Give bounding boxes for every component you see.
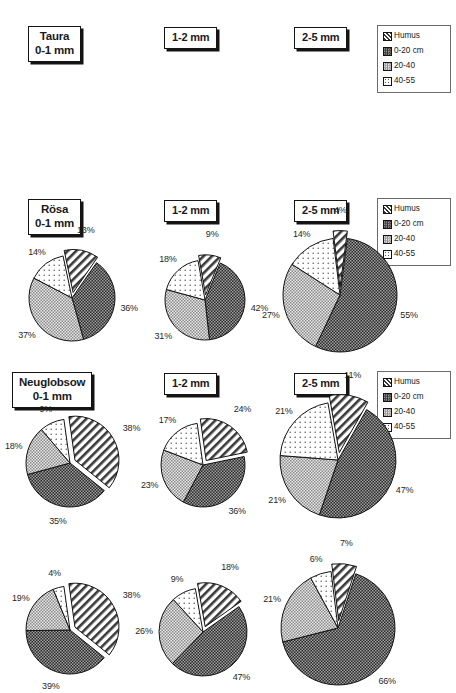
pie-percent-label: 21%: [263, 594, 280, 604]
pie-percent-label: 47%: [396, 485, 413, 495]
legend-swatch-humus-icon: [383, 32, 392, 41]
chart-row-taura: Taura 0-1 mm 1-2 mm 2-5 mm Humus 0-20 cm…: [0, 0, 456, 173]
pie-chart-taura-01mm: 13%36%37%14%: [3, 229, 141, 367]
pie-percent-label: 35%: [49, 516, 66, 526]
legend-swatch-0-20cm-icon: [383, 47, 392, 56]
pie-percent-label: 47%: [233, 672, 250, 682]
legend-label: 20-40: [394, 62, 415, 70]
site-name: Rösa: [35, 203, 74, 217]
legend-item-0-20cm: 0-20 cm: [383, 47, 446, 56]
pie-percent-label: 14%: [293, 229, 310, 239]
pie-chart-neuglobsow-01mm: 38%39%19%4%: [0, 560, 140, 693]
pie-percent-label: 66%: [378, 676, 395, 686]
pie-chart-taura-25mm: 4%55%27%14%: [257, 212, 423, 378]
pie-chart-neuglobsow-12mm: 18%47%26%9%: [133, 562, 273, 693]
pie-chart-rsa-25mm: 11%47%21%21%: [254, 376, 422, 544]
pie-percent-label: 18%: [221, 562, 238, 572]
pie-percent-label: 26%: [135, 626, 152, 636]
pie-percent-label: 14%: [28, 247, 45, 257]
pie-percent-label: 55%: [400, 310, 417, 320]
site-name: Taura: [35, 30, 74, 44]
pie-chart-rsa-12mm: 24%36%23%17%: [135, 397, 271, 533]
site-name: Neuglobsow: [19, 376, 85, 390]
pie-percent-label: 19%: [12, 593, 29, 603]
pie-percent-label: 4%: [334, 205, 347, 215]
site-header-taura: Taura 0-1 mm: [28, 26, 81, 62]
legend-label: 0-20 cm: [394, 47, 424, 55]
size-header-1-2mm-row2: 1-2 mm: [164, 200, 217, 222]
legend-swatch-40-55-icon: [383, 77, 392, 86]
legend-label: Humus: [394, 32, 420, 40]
pie-percent-label: 37%: [18, 330, 35, 340]
pie-percent-label: 13%: [77, 225, 94, 235]
pie-percent-label: 17%: [159, 415, 176, 425]
pie-percent-label: 4%: [48, 568, 61, 578]
pie-percent-label: 39%: [42, 681, 59, 691]
legend-row1: Humus 0-20 cm 20-40 40-55: [377, 25, 451, 93]
legend-item-40-55: 40-55: [383, 77, 446, 86]
pie-percent-label: 24%: [234, 404, 251, 414]
pie-percent-label: 11%: [344, 370, 361, 380]
pie-percent-label: 27%: [262, 310, 279, 320]
size-class: 1-2 mm: [172, 204, 209, 217]
pie-percent-label: 23%: [141, 480, 158, 490]
pie-percent-label: 18%: [5, 441, 22, 451]
pie-percent-label: 9%: [40, 404, 53, 414]
pie-slice-humus: [200, 419, 247, 461]
pie-percent-label: 18%: [159, 254, 176, 264]
size-header-1-2mm-row1: 1-2 mm: [164, 27, 217, 49]
pie-percent-label: 6%: [310, 554, 323, 564]
pie-chart-rsa-01mm: 38%35%18%9%: [0, 393, 140, 533]
legend-item-humus: Humus: [383, 32, 446, 41]
size-class: 1-2 mm: [172, 31, 209, 44]
pie-percent-label: 9%: [206, 229, 219, 239]
legend-item-20-40: 20-40: [383, 62, 446, 71]
size-class: 2-5 mm: [302, 31, 339, 44]
size-header-1-2mm-row3: 1-2 mm: [164, 373, 217, 395]
pie-percent-label: 21%: [275, 406, 292, 416]
size-class: 1-2 mm: [172, 377, 209, 390]
pie-percent-label: 9%: [171, 574, 184, 584]
legend-label: 40-55: [394, 77, 415, 85]
size-header-2-5mm-row1: 2-5 mm: [294, 27, 347, 49]
pie-percent-label: 31%: [155, 331, 172, 341]
legend-swatch-20-40-icon: [383, 62, 392, 71]
pie-percent-label: 7%: [340, 538, 353, 548]
pie-chart-taura-12mm: 9%42%31%18%: [139, 234, 271, 366]
pie-percent-label: 36%: [120, 303, 137, 313]
size-class: 0-1 mm: [35, 44, 74, 58]
pie-percent-label: 36%: [228, 506, 245, 516]
pie-percent-label: 21%: [268, 495, 285, 505]
pie-chart-neuglobsow-25mm: 7%66%21%6%: [255, 545, 421, 693]
